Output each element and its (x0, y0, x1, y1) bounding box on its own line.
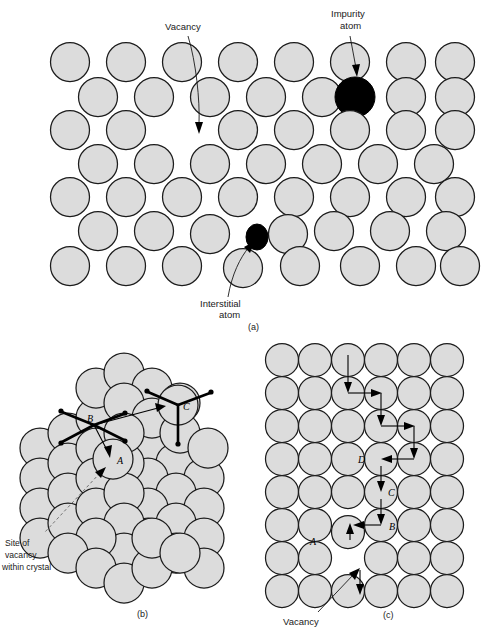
atom (266, 443, 299, 476)
interstitial-label-line2: atom (219, 309, 240, 320)
atom (219, 111, 258, 150)
vacancy-label: Vacancy (283, 616, 319, 627)
panel-c-lattice-grid (266, 344, 464, 608)
atom (219, 178, 258, 217)
vacancy-arrowhead (195, 122, 203, 134)
panel-a-atom-row-1 (51, 43, 475, 82)
atom (163, 247, 202, 286)
atom (299, 443, 332, 476)
atom (299, 377, 332, 410)
atom (398, 377, 431, 410)
atom (441, 247, 480, 286)
atom (51, 43, 90, 82)
crystal-defects-figure: Vacancy Impurity atom Interstitial atom … (0, 0, 489, 637)
atom (51, 247, 90, 286)
panel-c-vacancy-migration: Vacancy A B C D (c) (250, 330, 489, 637)
atom (397, 247, 436, 286)
atom (431, 575, 464, 608)
atom (163, 43, 202, 82)
site-c-label: C (388, 487, 395, 498)
site-c-label: C (183, 401, 190, 412)
atom (387, 178, 426, 217)
site-a-label: A (116, 455, 124, 466)
atom (163, 178, 202, 217)
interstitial-label-line1: Interstitial (200, 298, 241, 309)
site-b-label: B (389, 521, 395, 532)
atom (219, 43, 258, 82)
atom (341, 247, 380, 286)
atom (331, 43, 370, 82)
atom (332, 410, 365, 443)
jump-vector-node (208, 389, 213, 394)
atom (266, 476, 299, 509)
atom (398, 542, 431, 575)
atom (387, 111, 426, 150)
panel-a-atom-row-6 (79, 212, 466, 254)
atom (431, 443, 464, 476)
atom (427, 212, 466, 251)
atom (107, 178, 146, 217)
atom (359, 145, 398, 184)
atom (331, 178, 370, 217)
atom (431, 344, 464, 377)
atom (365, 542, 398, 575)
site-of-vacancy-line1: Site of (5, 538, 30, 548)
atom (266, 377, 299, 410)
atom (247, 78, 286, 117)
atom (135, 212, 174, 251)
atom (332, 476, 365, 509)
atom (303, 145, 342, 184)
atom (191, 78, 230, 117)
atom (371, 212, 410, 251)
atom (107, 43, 146, 82)
atom (299, 410, 332, 443)
atom (398, 344, 431, 377)
panel-a-atom-row-4 (79, 145, 454, 184)
atom (299, 344, 332, 377)
atom (266, 542, 299, 575)
atom (79, 145, 118, 184)
atom (247, 145, 286, 184)
site-d-label: D (357, 454, 366, 465)
atom (431, 410, 464, 443)
atom (135, 78, 174, 117)
atom (160, 533, 200, 573)
atom (135, 145, 174, 184)
atom (431, 542, 464, 575)
atom (79, 212, 118, 251)
atom (398, 509, 431, 542)
atom (365, 344, 398, 377)
atom (299, 476, 332, 509)
site-a-label: A (309, 536, 317, 547)
atom (107, 247, 146, 286)
atom (266, 410, 299, 443)
vacancy-label: Vacancy (165, 21, 201, 32)
atom (431, 509, 464, 542)
impurity-label-line1: Impurity (331, 8, 365, 19)
atom (415, 145, 454, 184)
atom (188, 428, 228, 468)
site-of-vacancy-line3: within crystal (1, 562, 51, 572)
atom (436, 178, 475, 217)
jump-vector-node (144, 388, 149, 393)
atom (79, 78, 118, 117)
panel-b-caption: (b) (137, 609, 148, 619)
atom (365, 575, 398, 608)
atom (331, 111, 370, 150)
atom (398, 476, 431, 509)
panel-a-atom-row-2 (79, 77, 475, 117)
atom (266, 509, 299, 542)
atom (191, 145, 230, 184)
site-of-vacancy-line2: vacancy (5, 550, 37, 560)
atom (398, 575, 431, 608)
atom (281, 247, 320, 286)
atom (315, 212, 354, 251)
atom (436, 43, 475, 82)
atom (107, 111, 146, 150)
panel-a-atom-row-7 (51, 247, 480, 288)
jump-vector-node (58, 408, 63, 413)
panel-c-caption: (c) (383, 610, 394, 620)
atom (266, 344, 299, 377)
jump-vector-node (122, 438, 127, 443)
atom (51, 111, 90, 150)
